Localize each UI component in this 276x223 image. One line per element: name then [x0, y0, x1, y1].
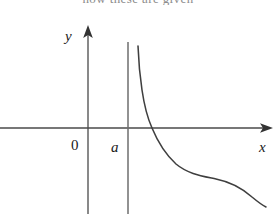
y-axis-label: y: [63, 28, 72, 44]
graph-canvas: y x 0 a: [0, 0, 276, 223]
x-axis-label: x: [258, 139, 266, 155]
graph-figure: how these are given y x 0 a: [0, 0, 276, 223]
origin-label: 0: [71, 137, 79, 153]
asymptote-label: a: [111, 139, 119, 155]
function-curve: [138, 46, 266, 207]
